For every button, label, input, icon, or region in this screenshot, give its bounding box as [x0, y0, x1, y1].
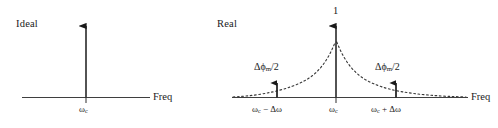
right-delta-phi-divisor: /2 [392, 61, 400, 72]
lower-sideband-tick-label: ωc − Δω [252, 105, 282, 114]
real-omega-subscript: c [335, 108, 338, 114]
phase-noise-spectrum-figure: Ideal Freq ωc Real 1 Freq ωc − Δω ωc ωc … [0, 0, 498, 128]
left-delta-phi-divisor: /2 [271, 61, 279, 72]
real-panel-title: Real [217, 19, 237, 30]
phase-noise-skirt-left [233, 42, 335, 97]
phase-noise-skirt-right [337, 42, 466, 97]
real-carrier-tick-label: ωc [329, 105, 338, 114]
real-freq-axis-label: Freq [471, 92, 490, 103]
ideal-freq-axis-label: Freq [153, 92, 172, 103]
upper-sideband-tick-label: ωc + Δω [371, 105, 401, 114]
upper-omega-offset: + Δω [380, 104, 401, 114]
right-skirt-magnitude-label: Δϕm/2 [375, 62, 400, 73]
lower-omega-offset: − Δω [261, 104, 282, 114]
carrier-amplitude-label: 1 [333, 6, 338, 17]
left-delta-phi-glyph: Δϕ [254, 61, 266, 72]
ideal-omega-subscript: c [85, 108, 88, 114]
left-skirt-magnitude-label: Δϕm/2 [254, 62, 279, 73]
right-delta-phi-glyph: Δϕ [375, 61, 387, 72]
ideal-panel-graphics [22, 26, 150, 103]
ideal-carrier-tick-label: ωc [79, 105, 88, 114]
figure-canvas [0, 0, 498, 128]
ideal-panel-title: Ideal [16, 19, 38, 30]
